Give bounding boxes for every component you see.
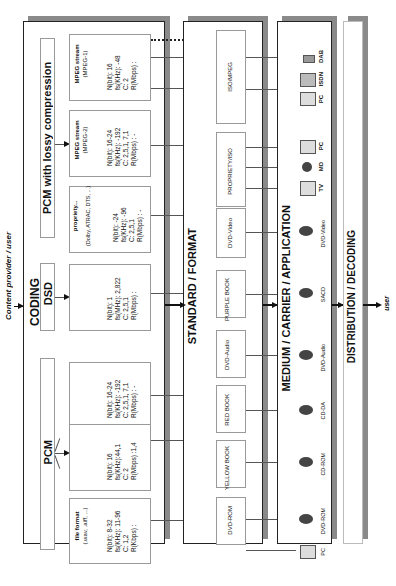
lossy-header-label: PCM with lossy compression [41, 42, 53, 234]
dvd-rom-disc-icon [299, 514, 313, 524]
standard-title: STANDARD / FORMAT [186, 228, 198, 344]
file-format-r: R(Kbps) : [130, 492, 138, 552]
pcm-dvd-c: C: 2,5,1, 7,1 [122, 358, 130, 418]
pc-icon-3 [300, 545, 316, 559]
mpeg2-subtitle: (MPEG-2) [81, 115, 89, 165]
pcm-cd-f: fs(KHz):44,1 [114, 420, 122, 480]
medium-label-dvd-audio: DVD-Audio [320, 344, 326, 372]
std-dvd-audio-label: DVD-Audio [224, 340, 236, 370]
pcm-dvd-r: R(Mbps) : - [130, 358, 138, 418]
file-format-subtitle: (.wav, .aiff, ...) [81, 501, 89, 551]
mpeg2-r: R(Mbps) : - [130, 106, 138, 166]
dsd-n: N(bit): 1 [106, 260, 114, 320]
medium-label-dab: DAB [318, 50, 324, 63]
medium-label-dvd-rom: DVD-ROM [320, 508, 326, 534]
propriety-f: fs(KHz): -96 [120, 182, 128, 242]
file-format-f: fs(KHz): 11-96 [114, 492, 122, 552]
medium-label-cd-da: CD-DA [320, 402, 326, 419]
output-arrow-head [376, 302, 382, 308]
std-red-book-label: RED BOOK [224, 394, 236, 426]
pcm-cd-n: N(bit): 16 [106, 420, 114, 480]
dsd-r: R(Mbps) : [130, 260, 138, 320]
medium-label-isdn: ISDN [318, 72, 324, 86]
file-format-n: N(bit): 8-32 [106, 492, 114, 552]
pcm-header-label: PCM [42, 440, 54, 464]
file-format-c: C: 1,2 [122, 492, 130, 552]
medium-label-dvd-video: DVD-Video [320, 220, 326, 247]
pcm-dvd-n: N(bit): 16-24 [106, 358, 114, 418]
propriety-c: C: 2,5,1 [128, 182, 136, 242]
std-purple-book-label: PURPLE BOOK [224, 278, 236, 321]
cd-da-disc-icon [299, 405, 313, 415]
mpeg1-title: MPEG stream [73, 39, 81, 89]
mpeg1-subtitle: (MPEG-1) [81, 39, 89, 89]
mpeg2-n: N(bit): 16-24 [106, 106, 114, 166]
mpeg1-c: C: 2 [122, 30, 130, 90]
medium-title: MEDIUM / CARRIER / APPLICATION [280, 205, 292, 391]
output-label: user [383, 296, 390, 311]
propriety-n: N(bit): -24 [112, 182, 120, 242]
isdn-device-icon [300, 73, 316, 87]
std-propriety-iso-label: PROPRIETY/ISO [227, 148, 233, 195]
tv-icon [300, 181, 316, 196]
md-disc-icon [302, 162, 312, 172]
std-yellow-book-label: YELLOW BOOK [224, 446, 236, 490]
input-label: Content provider / user [4, 232, 13, 320]
mpeg1-f: fs(KHz): -48 [114, 30, 122, 90]
dsd-header-label: DSD [42, 282, 54, 305]
medium-label-pc-3: PC [320, 548, 326, 556]
mpeg1-r: R(Mbps) : [130, 30, 138, 90]
std-dvd-rom-label: DVD-ROM [227, 506, 233, 535]
medium-label-pc-1: PC [318, 95, 324, 103]
medium-label-pc-2: PC [318, 142, 324, 150]
dab-radio-icon [303, 55, 315, 63]
pcm-cd-r: R(Mbps) :1,4 [130, 420, 138, 480]
std-dvd-video-label: DVD-Video [227, 218, 233, 248]
medium-label-cd-rom: CD-ROM [320, 453, 326, 476]
dvd-audio-disc-icon [299, 350, 313, 360]
mpeg1-n: N(bit): 16 [106, 30, 114, 90]
dvdrom-to-pc [246, 550, 296, 551]
cd-rom-disc-icon [299, 457, 313, 467]
mpeg2-c: C: 2,5,1, 7,1 [122, 106, 130, 166]
pc-icon-1 [300, 92, 316, 106]
mpeg2-title: MPEG stream [73, 115, 81, 165]
dsd-f: fs(MHz): 2,822 [114, 260, 122, 320]
medium-label-sacd: SACD [320, 287, 326, 302]
propriety-title: propriety... [71, 191, 79, 241]
std-iso-mpeg-label: ISO/MPEG [227, 62, 233, 92]
pcm-dvd-f: fs(KHz): -192 [114, 358, 122, 418]
mpeg2-f: fs(KHz): -192 [114, 106, 122, 166]
distribution-title: DISTRIBUTION / DECODING [346, 230, 357, 363]
file-format-title: file format [73, 501, 81, 551]
medium-label-tv: TV [318, 184, 324, 192]
dsd-c: C: 2,5,1 [122, 260, 130, 320]
dvd-video-disc-icon [299, 226, 313, 236]
propriety-r: R(Mbps) : - [136, 182, 144, 242]
coding-to-standard-arrow-head [180, 302, 186, 308]
sacd-disc-icon [299, 288, 313, 298]
pc-icon-2 [300, 140, 316, 154]
propriety-subtitle: (Dolby, ATRAC, DTS, ...) [84, 181, 92, 251]
coding-title: CODING [28, 278, 42, 326]
pcm-cd-c: C: 2 [122, 420, 130, 480]
medium-label-md: MD [318, 162, 324, 171]
